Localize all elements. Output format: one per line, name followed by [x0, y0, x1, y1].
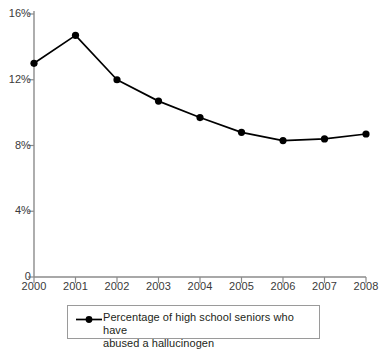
data-point-2000 — [30, 60, 37, 67]
x-axis-tick-label: 2008 — [342, 280, 380, 292]
plot-area: 04%8%12%16% 2000200120022003200420052006… — [0, 0, 380, 292]
series-data-points — [30, 32, 369, 144]
legend-label: Percentage of high school seniors who ha… — [103, 311, 314, 350]
legend-label-line2: abused a hallucinogen — [103, 337, 214, 349]
data-point-2007 — [321, 135, 328, 142]
data-point-2006 — [279, 137, 286, 144]
plot-svg — [0, 0, 380, 292]
y-axis-tick-label: 8% — [0, 140, 31, 151]
data-point-2003 — [155, 98, 162, 105]
chart-legend: Percentage of high school seniors who ha… — [67, 305, 320, 339]
legend-marker-icon — [75, 313, 103, 326]
y-axis-tick-label: 12% — [0, 74, 31, 85]
x-axis-tick-label-wrap: 2008 — [342, 280, 380, 292]
data-point-2001 — [72, 32, 79, 39]
data-point-2005 — [238, 129, 245, 136]
legend-label-line1: Percentage of high school seniors who ha… — [103, 311, 294, 336]
data-point-2008 — [362, 130, 369, 137]
y-axis-tick-label: 16% — [0, 8, 31, 19]
legend-entry: Percentage of high school seniors who ha… — [75, 311, 314, 350]
series-line — [34, 35, 366, 140]
data-point-2002 — [113, 76, 120, 83]
y-axis-tick-label: 4% — [0, 205, 31, 216]
data-point-2004 — [196, 114, 203, 121]
legend-line-circle-marker — [75, 312, 103, 325]
